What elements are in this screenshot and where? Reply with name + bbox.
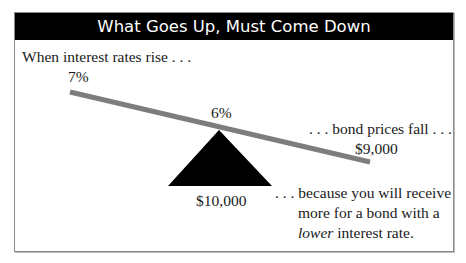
intro-text: When interest rates rise . . . xyxy=(22,48,191,66)
price-fall-text: . . . bond prices fall . . . xyxy=(309,120,452,138)
because-line-3: lower interest rate. xyxy=(298,224,414,242)
because-line-3-rest: interest rate. xyxy=(333,224,413,241)
because-line-2: more for a bond with a xyxy=(298,204,440,222)
fulcrum-triangle xyxy=(168,130,272,186)
rate-high-label: 7% xyxy=(68,68,89,86)
rate-mid-label: 6% xyxy=(211,104,232,122)
price-low-label: $9,000 xyxy=(355,140,398,158)
price-par-label: $10,000 xyxy=(196,192,246,210)
because-line-1: . . . because you will receive xyxy=(275,184,451,202)
emphasis-lower: lower xyxy=(298,224,333,241)
